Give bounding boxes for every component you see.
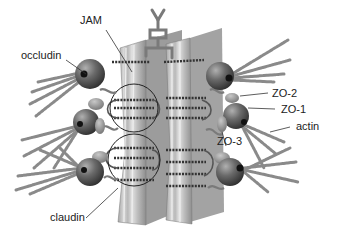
label-zo2: ZO-2 <box>272 88 297 99</box>
right-membrane <box>166 28 224 224</box>
label-actin: actin <box>296 121 319 132</box>
left-protein-complexes <box>73 59 108 186</box>
label-zo1: ZO-1 <box>281 104 306 115</box>
actin-filaments-left <box>16 72 84 194</box>
label-occludin: occludin <box>21 50 61 61</box>
tight-junction-diagram <box>0 0 340 242</box>
label-zo3: ZO-3 <box>217 136 242 147</box>
label-jam: JAM <box>80 15 102 26</box>
label-claudin: claudin <box>50 212 85 223</box>
